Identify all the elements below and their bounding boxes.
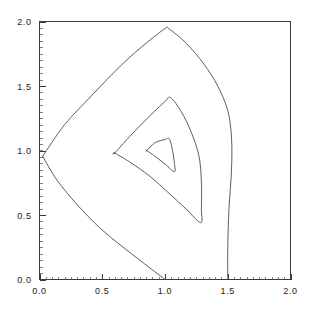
figure-background xyxy=(0,0,312,316)
y-tick-label: 0.0 xyxy=(17,275,31,285)
y-tick-label: 1.5 xyxy=(17,82,31,92)
x-tick-label: 1.0 xyxy=(158,286,172,296)
x-tick-label: 2.0 xyxy=(283,286,297,296)
contour-plot-figure: 0.00.51.01.52.0 0.00.51.01.52.0 xyxy=(0,0,312,316)
y-tick-label: 2.0 xyxy=(17,17,31,27)
y-tick-label: 0.5 xyxy=(17,211,31,221)
plot-canvas: 0.00.51.01.52.0 0.00.51.01.52.0 xyxy=(0,0,312,316)
x-tick-label: 1.5 xyxy=(221,286,235,296)
x-tick-label: 0.0 xyxy=(32,286,46,296)
x-tick-label: 0.5 xyxy=(95,286,109,296)
y-tick-label: 1.0 xyxy=(17,146,31,156)
